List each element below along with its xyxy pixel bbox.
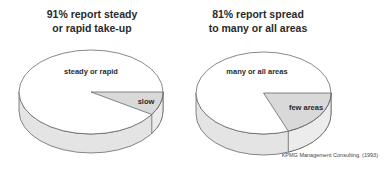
left-major-label: steady or rapid bbox=[64, 67, 118, 76]
right-pie-chart: many or all areas few areas bbox=[196, 52, 331, 155]
right-minor-label: few areas bbox=[289, 103, 323, 112]
right-major-label: many or all areas bbox=[226, 67, 287, 76]
pie-charts-canvas: steady or rapid slow many or all areas f… bbox=[0, 0, 386, 172]
source-citation: KPMG Management Consulting, (1993) bbox=[270, 152, 378, 158]
left-pie-chart: steady or rapid slow bbox=[19, 50, 163, 153]
left-minor-label: slow bbox=[138, 97, 155, 106]
